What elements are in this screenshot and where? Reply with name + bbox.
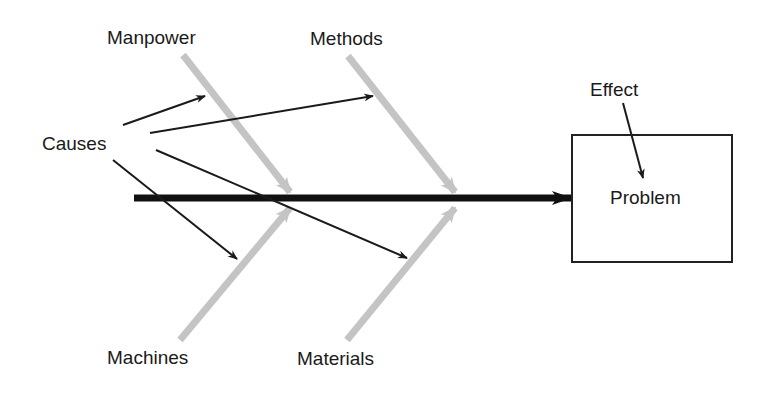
label-materials: Materials bbox=[297, 349, 374, 368]
bone-methods bbox=[348, 56, 455, 192]
cause-arrow-materials bbox=[156, 150, 407, 258]
cause-arrow-manpower bbox=[123, 96, 205, 125]
label-causes: Causes bbox=[42, 134, 106, 153]
label-machines: Machines bbox=[107, 348, 188, 367]
cause-arrow-machines bbox=[113, 160, 237, 259]
label-problem: Problem bbox=[610, 188, 681, 207]
label-methods: Methods bbox=[310, 29, 383, 48]
bone-materials bbox=[347, 208, 455, 340]
cause-arrow-methods bbox=[150, 96, 373, 133]
bone-manpower bbox=[183, 55, 290, 192]
label-effect: Effect bbox=[590, 80, 638, 99]
label-manpower: Manpower bbox=[107, 28, 196, 47]
